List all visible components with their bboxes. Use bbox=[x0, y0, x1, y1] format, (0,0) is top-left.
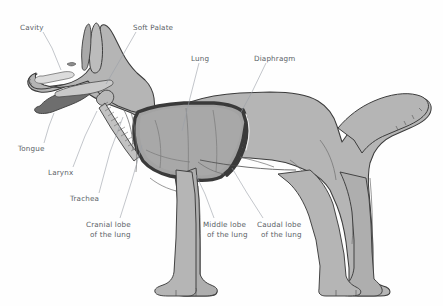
label-lung: Lung bbox=[191, 54, 209, 63]
label-cranial-lobe-line1: Cranial lobe bbox=[86, 220, 131, 229]
label-trachea: Trachea bbox=[69, 194, 99, 203]
label-soft-palate: Soft Palate bbox=[133, 23, 174, 32]
label-caudal-lobe-line1: Caudal lobe bbox=[257, 220, 302, 229]
leader-line-cavity bbox=[43, 32, 61, 70]
dog-ear-front bbox=[89, 23, 102, 73]
dog-eye bbox=[67, 63, 76, 66]
label-middle-lobe-line2: of the lung bbox=[207, 230, 248, 239]
dog-anatomy-illustration: Cavity Soft Palate Lung Diaphragm Tongue… bbox=[0, 0, 443, 306]
label-diaphragm: Diaphragm bbox=[254, 54, 295, 63]
anatomy-figure: Cavity Soft Palate Lung Diaphragm Tongue… bbox=[0, 0, 443, 306]
label-tongue: Tongue bbox=[17, 144, 45, 153]
nasal-cavity bbox=[35, 72, 74, 84]
leader-line-caudal-lobe bbox=[232, 168, 263, 218]
label-caudal-lobe-line2: of the lung bbox=[261, 230, 302, 239]
leader-line-tongue bbox=[44, 113, 54, 143]
leader-line-larynx bbox=[73, 111, 97, 167]
dog-body-group bbox=[28, 23, 431, 296]
label-middle-lobe-line1: Middle lobe bbox=[203, 220, 246, 229]
label-cavity: Cavity bbox=[20, 23, 44, 32]
front-leg-near bbox=[155, 170, 196, 296]
label-cranial-lobe-line2: of the lung bbox=[90, 230, 131, 239]
label-larynx: Larynx bbox=[48, 168, 74, 177]
